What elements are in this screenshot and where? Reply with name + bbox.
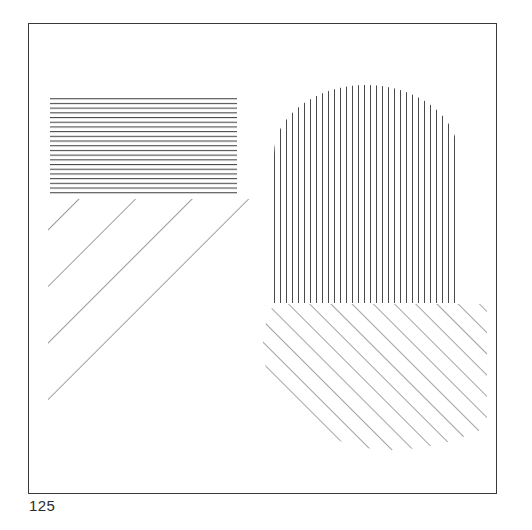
- hatching-figure: [28, 23, 497, 494]
- region-vertical-ruled-dome: [268, 53, 468, 309]
- region-diagonal-wide-ruled-triangle: [38, 191, 278, 453]
- plate-page: 125: [0, 0, 532, 530]
- region-horizontal-ruled-rectangle: [50, 96, 237, 196]
- plate-caption: 125: [29, 498, 55, 515]
- region-diagonal-close-ruled-lobe: [256, 298, 496, 458]
